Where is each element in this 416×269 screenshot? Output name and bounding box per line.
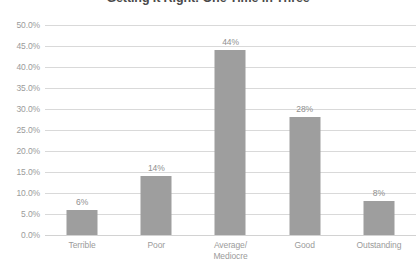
bar — [363, 201, 394, 235]
x-axis-category-label: Terrible — [45, 240, 119, 251]
y-axis-tick-label: 25.0% — [0, 125, 40, 135]
x-axis-labels: TerriblePoorAverage/MediocreGoodOutstand… — [45, 240, 416, 269]
gridline — [45, 235, 416, 236]
bar-group: 28% — [268, 25, 342, 235]
bar — [215, 50, 246, 235]
y-axis-tick-label: 35.0% — [0, 83, 40, 93]
y-axis-tick-label: 0.0% — [0, 230, 40, 240]
bar-group: 6% — [45, 25, 119, 235]
y-axis-tick-label: 15.0% — [0, 167, 40, 177]
bar-value-label: 8% — [373, 188, 385, 198]
y-axis-tick-label: 20.0% — [0, 146, 40, 156]
y-axis-tick-label: 40.0% — [0, 62, 40, 72]
bar-group: 44% — [193, 25, 267, 235]
bar — [67, 210, 98, 235]
chart-title: Getting It Right: One Time in Three — [0, 0, 416, 5]
x-axis-category-line: Poor — [119, 240, 193, 251]
x-axis-category-line: Average/ — [193, 240, 267, 251]
bar-group: 14% — [119, 25, 193, 235]
bar-value-label: 28% — [296, 104, 313, 114]
x-axis-category-label: Poor — [119, 240, 193, 251]
x-axis-category-label: Average/Mediocre — [193, 240, 267, 262]
x-axis-category-line: Good — [268, 240, 342, 251]
y-axis-tick-label: 30.0% — [0, 104, 40, 114]
y-axis-tick-label: 10.0% — [0, 188, 40, 198]
bar-value-label: 6% — [76, 197, 88, 207]
x-axis-category-line: Terrible — [45, 240, 119, 251]
y-axis-tick-label: 5.0% — [0, 209, 40, 219]
bar-value-label: 14% — [148, 163, 165, 173]
x-axis-category-line: Outstanding — [342, 240, 416, 251]
y-axis-tick-label: 45.0% — [0, 41, 40, 51]
bar-group: 8% — [342, 25, 416, 235]
bar-chart: Getting It Right: One Time in Three 50.0… — [0, 0, 416, 269]
bar — [141, 176, 172, 235]
y-axis-labels: 50.0%45.0%40.0%35.0%30.0%25.0%20.0%15.0%… — [0, 25, 40, 235]
x-axis-category-line: Mediocre — [193, 251, 267, 262]
bar — [289, 117, 320, 235]
x-axis-category-label: Outstanding — [342, 240, 416, 251]
y-axis-tick-label: 50.0% — [0, 20, 40, 30]
bar-series: 6%14%44%28%8% — [45, 25, 416, 235]
x-axis-category-label: Good — [268, 240, 342, 251]
bar-value-label: 44% — [222, 37, 239, 47]
plot-area: 6%14%44%28%8% — [45, 25, 416, 235]
